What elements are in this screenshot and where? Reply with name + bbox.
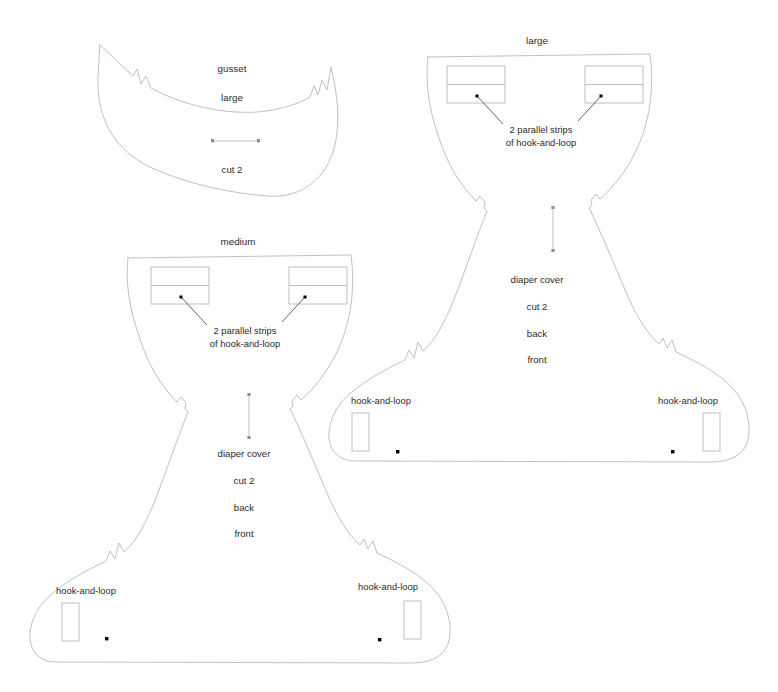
medium-callout-line-2: of hook-and-loop bbox=[210, 338, 280, 349]
large-tab-label-right: hook-and-loop bbox=[658, 395, 718, 406]
diaper-cover-medium-size-label: medium bbox=[221, 236, 256, 247]
medium-label-back: back bbox=[234, 502, 254, 513]
large-label-front: front bbox=[527, 354, 547, 365]
medium-tab-dot-left bbox=[105, 637, 108, 640]
diaper-cover-large-size-label: large bbox=[526, 35, 548, 46]
large-label-cut: cut 2 bbox=[527, 301, 548, 312]
medium-label-cut: cut 2 bbox=[234, 475, 255, 486]
large-tab-dot-right bbox=[671, 450, 674, 453]
medium-label-front: front bbox=[234, 528, 254, 539]
medium-label-diaper-cover: diaper cover bbox=[218, 448, 272, 459]
medium-tab-dot-right bbox=[378, 638, 381, 641]
large-callout-line-1: 2 parallel strips bbox=[509, 124, 572, 135]
large-tab-dot-left bbox=[396, 450, 399, 453]
gusset-title-line-1: gusset bbox=[218, 63, 247, 74]
medium-tab-label-right: hook-and-loop bbox=[358, 581, 418, 592]
large-label-diaper-cover: diaper cover bbox=[511, 274, 565, 285]
piece-gusset-large[interactable]: gusset large cut 2 bbox=[98, 45, 338, 196]
large-callout-line-2: of hook-and-loop bbox=[506, 137, 576, 148]
piece-diaper-cover-large[interactable]: large 2 parallel strips of hook-and-loop bbox=[329, 35, 749, 462]
gusset-title-line-2: large bbox=[221, 92, 243, 103]
medium-callout-line-1: 2 parallel strips bbox=[213, 325, 276, 336]
large-tab-label-left: hook-and-loop bbox=[351, 395, 411, 406]
gusset-cut-label: cut 2 bbox=[222, 164, 243, 175]
pattern-sheet: gusset large cut 2 large bbox=[0, 0, 778, 692]
large-label-back: back bbox=[527, 328, 547, 339]
medium-tab-label-left: hook-and-loop bbox=[56, 585, 116, 596]
